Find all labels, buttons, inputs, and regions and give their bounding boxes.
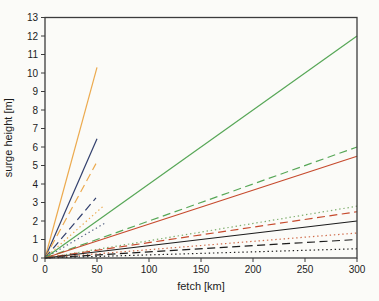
y-tick-label: 12 [27, 31, 39, 42]
x-axis-title: fetch [km] [177, 280, 225, 292]
y-tick-label: 10 [27, 68, 39, 79]
x-tick-label: 50 [91, 264, 103, 275]
y-tick-label: 7 [32, 123, 38, 134]
chart-canvas: 050100150200250300012345678910111213fetc… [0, 0, 379, 301]
y-tick-label: 3 [32, 197, 38, 208]
y-tick-label: 6 [32, 142, 38, 153]
surge-height-vs-fetch-chart: 050100150200250300012345678910111213fetc… [0, 0, 379, 301]
y-axis-title: surge height [m] [2, 98, 14, 177]
figure-background [0, 0, 379, 301]
y-tick-label: 13 [27, 12, 39, 23]
y-tick-label: 4 [32, 179, 38, 190]
y-tick-label: 5 [32, 160, 38, 171]
x-tick-label: 0 [42, 264, 48, 275]
x-tick-label: 150 [193, 264, 210, 275]
y-tick-label: 2 [32, 216, 38, 227]
y-tick-label: 11 [28, 49, 39, 60]
x-tick-label: 300 [349, 264, 366, 275]
x-tick-label: 100 [141, 264, 158, 275]
y-tick-label: 8 [32, 105, 38, 116]
y-tick-label: 1 [32, 234, 38, 245]
x-tick-label: 250 [297, 264, 314, 275]
y-tick-label: 0 [32, 253, 38, 264]
x-tick-label: 200 [245, 264, 262, 275]
y-tick-label: 9 [32, 86, 38, 97]
